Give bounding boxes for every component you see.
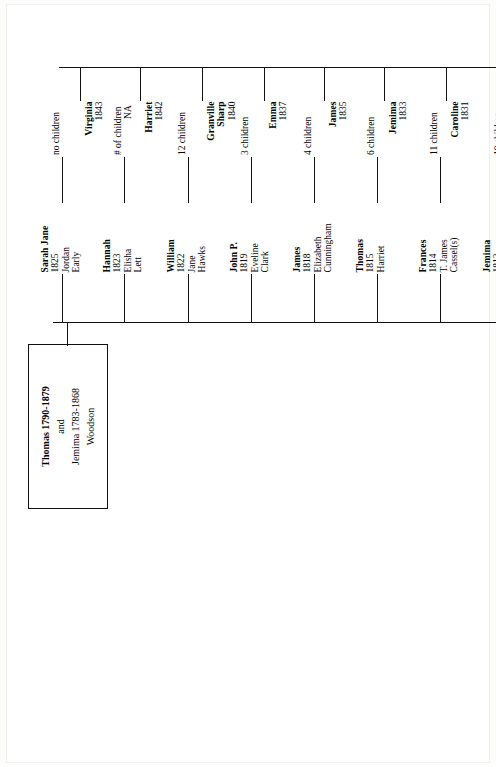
root-line-3: Jemima 1783-1868 xyxy=(68,386,83,466)
person-name: Emma xyxy=(268,101,278,187)
generation2-person: Harriet1842 xyxy=(144,101,165,187)
generation1-person: Hannah1823ElishaLett xyxy=(102,160,143,272)
generation2-person: Caroline1831 xyxy=(450,101,471,187)
generation1-children-count: 12 children xyxy=(177,69,187,155)
children-count-line: 3 children xyxy=(240,69,250,155)
scanned-page: Thomas 1790-1879 and Jemima 1783-1868 Wo… xyxy=(0,0,496,767)
generation1-person: James1818ElizabethCunningham xyxy=(292,160,333,272)
generation2-branch-line xyxy=(202,67,203,101)
person-year: 1843 xyxy=(94,101,104,187)
generation1-branch-line xyxy=(314,274,315,322)
person-name: Harriet xyxy=(144,101,154,187)
person-year: 1815 xyxy=(365,160,375,272)
generation1-branch-line xyxy=(62,274,63,322)
person-name: Virginia xyxy=(84,101,94,187)
person-year: 1840 xyxy=(227,101,237,187)
generation2-branch-line xyxy=(264,67,265,101)
person-year: 1837 xyxy=(278,101,288,187)
children-count-line: 11 children xyxy=(429,69,439,155)
person-year: 1825 xyxy=(50,160,60,272)
generation1-children-tick xyxy=(377,157,378,203)
person-name: Jemima xyxy=(388,101,398,187)
person-year: 1835 xyxy=(338,101,348,187)
person-year: 1822 xyxy=(176,160,186,272)
person-name: James xyxy=(328,101,338,187)
generation1-children-count: 4 children xyxy=(303,69,313,155)
generation2-person: Virginia1843 xyxy=(84,101,105,187)
generation2-person: James1835 xyxy=(328,101,349,187)
person-name: Jemima xyxy=(482,160,492,272)
children-count-line: 4 children xyxy=(303,69,313,155)
person-year: 1818 xyxy=(302,160,312,272)
generation2-branch-line xyxy=(80,67,81,101)
generation2-person: GranvilleSharp1840 xyxy=(206,101,237,187)
generation1-children-count: 6 children xyxy=(366,69,376,155)
person-year: 1813 xyxy=(492,160,496,272)
generation1-person: William1822JaneHawks xyxy=(166,160,207,272)
generation1-branch-line xyxy=(251,274,252,322)
generation2-branch-line xyxy=(324,67,325,101)
generation2-trunk xyxy=(59,67,394,68)
person-spouse-line-2: Early xyxy=(71,160,81,272)
person-year: 1831 xyxy=(460,101,470,187)
person-year: 1823 xyxy=(112,160,122,272)
person-name: Granville xyxy=(206,101,216,187)
children-count-line: 6 children xyxy=(366,69,376,155)
generation2-branch-line xyxy=(384,67,385,101)
generation1-children-count: 3 children xyxy=(240,69,250,155)
generation1-children-tick xyxy=(188,157,189,203)
generation2-person: Jemima1833 xyxy=(388,101,409,187)
generation1-person: Jemima1813DavidNooks xyxy=(482,160,496,272)
generation1-branch-line xyxy=(188,274,189,322)
children-count-line: # of children xyxy=(113,69,123,155)
family-tree-diagram: Thomas 1790-1879 and Jemima 1783-1868 Wo… xyxy=(6,4,496,767)
person-year: 1814 xyxy=(428,160,438,272)
person-name: Frances xyxy=(418,160,428,272)
generation2-branch-line xyxy=(446,67,447,101)
generation1-branch-line xyxy=(377,274,378,322)
children-count-line: no children xyxy=(51,69,61,155)
generation1-children-count: no children xyxy=(51,69,61,155)
generation1-children-tick xyxy=(440,157,441,203)
person-name-line-2: Sharp xyxy=(216,101,226,187)
generation1-branch-line xyxy=(124,274,125,322)
person-year: 1833 xyxy=(398,101,408,187)
generation1-children-tick xyxy=(251,157,252,203)
generation1-person: Sarah Jane1825JordanEarly xyxy=(40,160,81,272)
generation2-trunk-riser xyxy=(386,67,496,68)
person-name: Thomas xyxy=(355,160,365,272)
page-sheet: Thomas 1790-1879 and Jemima 1783-1868 Wo… xyxy=(6,4,490,763)
generation1-trunk xyxy=(53,322,496,323)
root-line-2: and xyxy=(53,386,68,466)
root-line-4: Woodson xyxy=(83,386,98,466)
generation2-branch-line xyxy=(140,67,141,101)
children-count-line: 12 children xyxy=(177,69,187,155)
root-line-1: Thomas 1790-1879 xyxy=(38,386,53,466)
generation2-person: Emma1837 xyxy=(268,101,289,187)
person-name: Caroline xyxy=(450,101,460,187)
children-count-line: NA xyxy=(123,69,133,155)
generation1-person: Thomas1815Harriet xyxy=(355,160,386,272)
person-name: William xyxy=(166,160,176,272)
person-name: James xyxy=(292,160,302,272)
root-couple-box: Thomas 1790-1879 and Jemima 1783-1868 Wo… xyxy=(28,344,108,509)
generation1-children-count: # of childrenNA xyxy=(113,69,134,155)
person-year: 1842 xyxy=(154,101,164,187)
generation1-children-tick xyxy=(62,157,63,203)
person-name: Sarah Jane xyxy=(40,160,50,272)
generation1-children-tick xyxy=(124,157,125,203)
generation1-children-count: 11 children xyxy=(429,69,439,155)
person-spouse-line-2: Lett xyxy=(133,160,143,272)
person-year: 1819 xyxy=(239,160,249,272)
generation1-children-tick xyxy=(314,157,315,203)
generation1-branch-line xyxy=(440,274,441,322)
root-to-trunk-connector xyxy=(67,322,68,346)
